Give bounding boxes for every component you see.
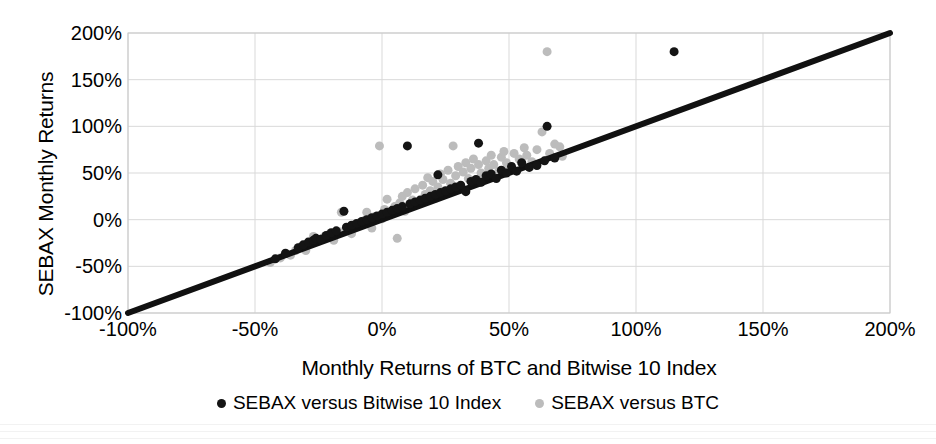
data-point	[403, 141, 412, 150]
data-point	[271, 254, 280, 263]
data-point	[393, 234, 402, 243]
data-point	[332, 226, 341, 235]
legend-marker-icon	[217, 399, 226, 408]
data-point	[532, 161, 541, 170]
data-point	[444, 166, 453, 175]
data-point	[525, 163, 534, 172]
data-point	[411, 184, 420, 193]
legend-item[interactable]: SEBAX versus BTC	[535, 392, 719, 414]
data-point	[383, 195, 392, 204]
data-point	[543, 47, 552, 56]
chart-legend: SEBAX versus Bitwise 10 IndexSEBAX versu…	[0, 392, 936, 414]
data-point	[403, 188, 412, 197]
legend-label: SEBAX versus Bitwise 10 Index	[233, 392, 501, 414]
data-point	[474, 160, 483, 169]
data-point	[492, 174, 501, 183]
scan-artifact	[0, 431, 936, 432]
scan-artifact	[0, 438, 936, 439]
scan-artifact	[0, 424, 936, 425]
data-point	[512, 167, 521, 176]
data-point	[474, 139, 483, 148]
x-axis-title: Monthly Returns of BTC and Bitwise 10 In…	[128, 356, 890, 380]
data-point	[543, 122, 552, 131]
data-point	[418, 181, 427, 190]
data-point	[532, 145, 541, 154]
legend-marker-icon	[535, 399, 544, 408]
legend-label: SEBAX versus BTC	[551, 392, 719, 414]
data-point	[540, 156, 549, 165]
data-point	[517, 158, 526, 167]
data-point	[550, 154, 559, 163]
data-point	[449, 141, 458, 150]
data-point	[375, 141, 384, 150]
data-point	[461, 187, 470, 196]
legend-item[interactable]: SEBAX versus Bitwise 10 Index	[217, 392, 501, 414]
data-point	[487, 151, 496, 160]
scatter-chart: SEBAX Monthly Returns -100%-50%0%50%100%…	[0, 0, 936, 444]
data-point	[466, 164, 475, 173]
data-point	[433, 170, 442, 179]
data-point	[451, 171, 460, 180]
data-point	[499, 147, 508, 156]
data-point	[281, 249, 290, 258]
data-point	[670, 47, 679, 56]
data-point	[339, 207, 348, 216]
